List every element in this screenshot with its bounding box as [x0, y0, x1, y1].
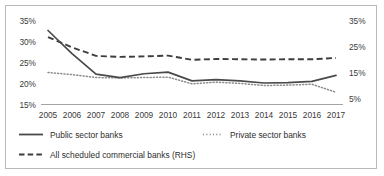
y-tick-right-3: 5% [349, 94, 362, 104]
y-tick-right-2: 15% [349, 68, 366, 78]
y-tick-left-1: 30% [19, 37, 36, 47]
y-axis-right-labels: 35% 25% 15% 5% [349, 16, 366, 104]
x-tick-2015: 2015 [279, 110, 298, 120]
x-tick-2012: 2012 [207, 110, 226, 120]
legend-label-all-scheduled-commercial-banks: All scheduled commercial banks (RHS) [50, 150, 195, 160]
y-tick-left-3: 20% [19, 79, 36, 89]
legend-label-public-sector-banks: Public sector banks [50, 130, 123, 140]
y-tick-left-2: 25% [19, 58, 36, 68]
x-tick-2010: 2010 [159, 110, 178, 120]
chart-figure: 35% 30% 25% 20% 15% 35% 25% 15% 5% 2005 … [0, 0, 384, 176]
x-tick-2011: 2011 [183, 110, 201, 120]
legend-label-private-sector-banks: Private sector banks [230, 130, 306, 140]
x-tick-2016: 2016 [303, 110, 322, 120]
x-tick-2008: 2008 [111, 110, 130, 120]
x-tick-2005: 2005 [39, 110, 58, 120]
y-tick-left-0: 35% [19, 16, 36, 26]
x-tick-2006: 2006 [63, 110, 82, 120]
x-tick-2014: 2014 [255, 110, 274, 120]
x-tick-2013: 2013 [231, 110, 250, 120]
y-axis-left-labels: 35% 30% 25% 20% 15% [19, 16, 36, 110]
x-tick-2009: 2009 [135, 110, 154, 120]
y-tick-right-0: 35% [349, 16, 366, 26]
series-line-all-scheduled-commercial-banks [48, 37, 336, 60]
chart-plot-area: 35% 30% 25% 20% 15% 35% 25% 15% 5% 2005 … [0, 0, 384, 176]
chart-legend: Public sector banks Private sector banks… [19, 130, 306, 160]
x-tick-2007: 2007 [87, 110, 106, 120]
y-tick-left-4: 15% [19, 100, 36, 110]
y-tick-right-1: 25% [349, 42, 366, 52]
x-axis-labels: 2005 2006 2007 2008 2009 2010 2011 2012 … [39, 110, 346, 120]
chart-svg: 35% 30% 25% 20% 15% 35% 25% 15% 5% 2005 … [0, 0, 384, 176]
series-line-public-sector-banks [48, 31, 336, 84]
x-tick-2017: 2017 [327, 110, 346, 120]
